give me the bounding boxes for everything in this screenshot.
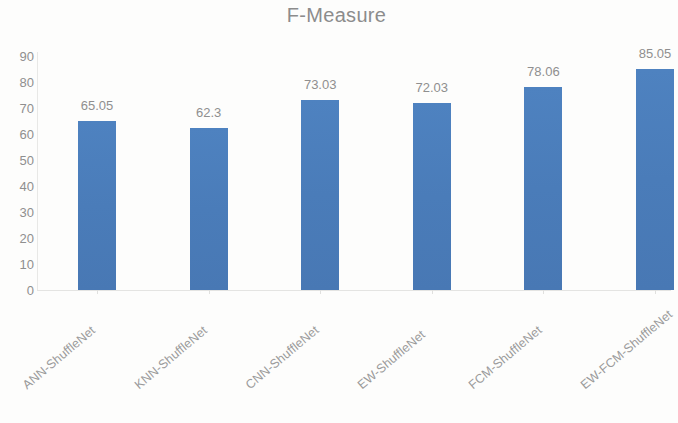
bar-value-label: 72.03 [397, 81, 467, 95]
y-axis-tick-label: 80 [0, 76, 34, 89]
x-axis-category-label: FCM-ShuffleNet [466, 323, 545, 392]
y-axis-tick-label: 0 [0, 284, 34, 297]
y-axis-tick-label: 30 [0, 206, 34, 219]
x-axis-tickmark [432, 290, 433, 294]
bar [413, 103, 451, 290]
bar [301, 100, 339, 290]
x-axis-category-label: EW-FCM-ShuffleNet [578, 307, 675, 392]
y-axis-tick-label: 10 [0, 258, 34, 271]
y-axis-tick-label: 90 [0, 50, 34, 63]
bar [78, 121, 116, 290]
bar-value-label: 65.05 [62, 99, 132, 113]
x-axis-category-label: ANN-ShuffleNet [20, 323, 98, 392]
bar [524, 87, 562, 290]
y-axis: 9080706050403020100 [0, 48, 34, 298]
bar [190, 128, 228, 290]
y-axis-tick-label: 50 [0, 154, 34, 167]
plot-area [38, 48, 673, 293]
x-axis-tickmark [209, 290, 210, 294]
y-axis-tick-label: 20 [0, 232, 34, 245]
chart-title: F-Measure [0, 4, 673, 27]
y-axis-tick-label: 70 [0, 102, 34, 115]
x-axis-tickmark [655, 290, 656, 294]
x-axis-tickmark [97, 290, 98, 294]
bar-value-label: 78.06 [508, 65, 578, 79]
bar-value-label: 73.03 [285, 78, 355, 92]
bar [636, 69, 674, 290]
bar-value-label: 85.05 [620, 47, 678, 61]
y-axis-tick-label: 60 [0, 128, 34, 141]
x-axis-tickmark [543, 290, 544, 294]
bar-value-label: 62.3 [174, 106, 244, 120]
x-axis-category-label: EW-ShuffleNet [355, 328, 428, 392]
x-axis-tickmark [320, 290, 321, 294]
x-axis-category-label: CNN-ShuffleNet [243, 323, 322, 392]
y-axis-tick-label: 40 [0, 180, 34, 193]
x-axis-category-label: KNN-ShuffleNet [132, 323, 210, 392]
